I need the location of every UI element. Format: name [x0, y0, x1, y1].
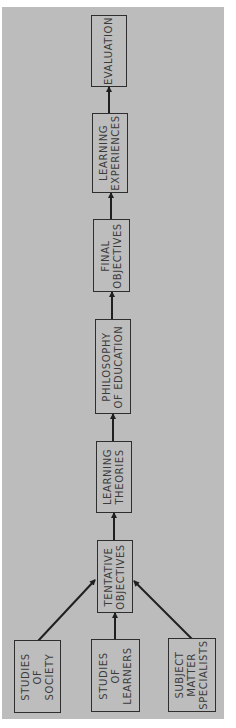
arrow-specialists-to-tentative: [134, 581, 192, 639]
node-subject-matter-specialists: SUBJECT MATTER SPECIALISTS: [168, 638, 216, 712]
node-label: STUDIES OF SOCIETY: [20, 653, 56, 700]
node-studies-of-learners: STUDIES OF LEARNERS: [91, 639, 140, 712]
node-label: LEARNING THEORIES: [102, 449, 126, 505]
node-learning-experiences: LEARNING EXPERIENCES: [92, 113, 128, 193]
node-label: FINAL OBJECTIVES: [100, 223, 124, 289]
node-studies-of-society: STUDIES OF SOCIETY: [14, 640, 61, 713]
node-learning-theories: LEARNING THEORIES: [96, 441, 132, 513]
node-label: EVALUATION: [103, 17, 115, 85]
node-evaluation: EVALUATION: [91, 15, 127, 87]
node-philosophy-of-education: PHILOSOPHY OF EDUCATION: [95, 319, 131, 414]
node-tentative-objectives: TENTATIVE OBJECTIVES: [97, 540, 133, 613]
arrow-society-to-tentative: [38, 580, 95, 641]
node-label: SUBJECT MATTER SPECIALISTS: [174, 640, 210, 709]
node-label: TENTATIVE OBJECTIVES: [103, 544, 127, 610]
node-label: STUDIES OF LEARNERS: [98, 647, 134, 705]
node-label: PHILOSOPHY OF EDUCATION: [101, 325, 125, 408]
node-final-objectives: FINAL OBJECTIVES: [93, 219, 130, 292]
node-label: LEARNING EXPERIENCES: [98, 115, 122, 190]
